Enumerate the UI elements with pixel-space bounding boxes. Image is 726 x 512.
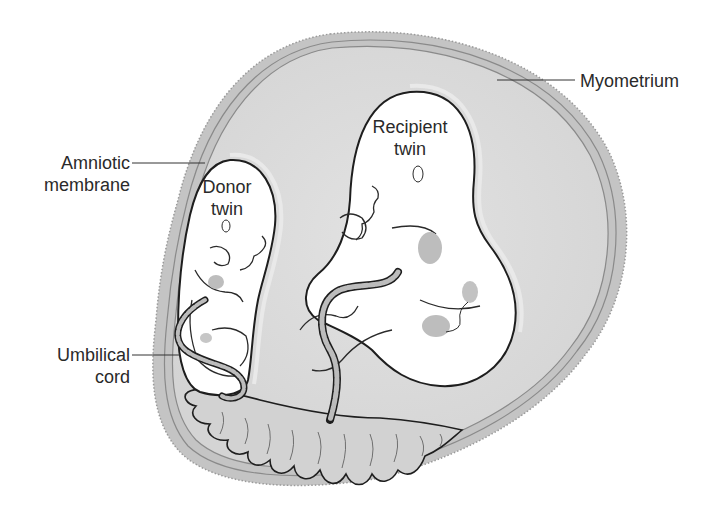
recipient-organ-shade-2 <box>462 281 478 303</box>
myometrium-text: Myometrium <box>580 70 679 92</box>
amniotic-membrane-text-line2: membrane <box>30 174 130 196</box>
recipient-twin-text-line2: twin <box>362 138 458 160</box>
umbilical-cord-text-line2: cord <box>30 366 130 388</box>
donor-twin-label: Donor twin <box>195 176 259 220</box>
recipient-twin-text-line1: Recipient <box>362 116 458 138</box>
umbilical-cord-text-line1: Umbilical <box>30 344 130 366</box>
recipient-twin-label: Recipient twin <box>362 116 458 160</box>
myometrium-label: Myometrium <box>580 70 679 92</box>
amniotic-membrane-text-line1: Amniotic <box>30 152 130 174</box>
donor-twin-text-line1: Donor <box>195 176 259 198</box>
donor-organ-shade-2 <box>200 333 212 343</box>
recipient-organ-shade-1 <box>418 232 442 264</box>
donor-twin-text-line2: twin <box>195 198 259 220</box>
donor-organ-shade <box>208 275 224 289</box>
recipient-organ-shade-3 <box>422 315 450 337</box>
amniotic-membrane-label: Amniotic membrane <box>30 152 130 196</box>
umbilical-cord-label: Umbilical cord <box>30 344 130 388</box>
